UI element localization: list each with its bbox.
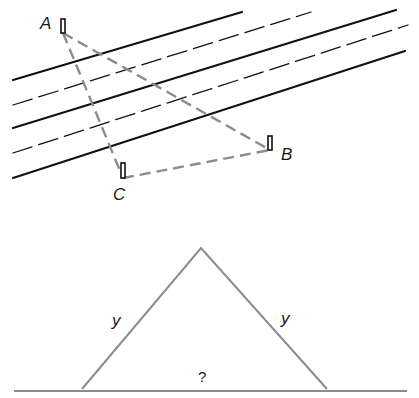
- diagram-canvas: A B C y y ?: [0, 0, 419, 398]
- triangle-base-label: ?: [198, 368, 206, 385]
- point-label-c: C: [113, 185, 126, 204]
- stake-a-icon: [61, 19, 65, 33]
- triangle-right-side-label: y: [280, 309, 291, 328]
- river-line-dashed-1: [13, 12, 311, 105]
- stake-c-icon: [121, 163, 125, 178]
- sight-line-a-b: [63, 33, 270, 150]
- sight-line-c-b: [123, 150, 270, 178]
- river-line-dashed-2: [13, 25, 408, 153]
- point-label-b: B: [281, 145, 292, 164]
- triangle-left-side-label: y: [111, 311, 122, 330]
- river-line-solid-2: [13, 10, 396, 128]
- stake-b-icon: [268, 136, 272, 150]
- point-label-a: A: [39, 14, 51, 33]
- river-line-solid-3: [13, 51, 405, 178]
- river-lines: [13, 10, 408, 178]
- sight-line-a-c: [63, 33, 123, 178]
